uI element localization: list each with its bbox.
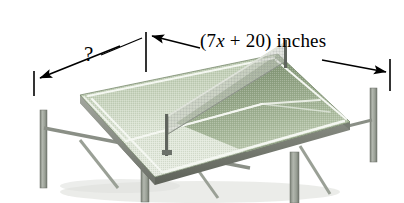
width-arrow-right	[322, 60, 386, 72]
ping-pong-table-figure: (7x + 20) inches ?	[0, 0, 404, 203]
unknown-dimension-label: ?	[84, 44, 94, 65]
depth-arrow	[40, 46, 120, 78]
width-label-variable: x	[216, 30, 225, 51]
width-dimension-label: (7x + 20) inches	[200, 31, 326, 50]
unknown-leader	[101, 38, 142, 55]
width-label-suffix: + 20) inches	[225, 30, 326, 51]
width-label-prefix: (7	[200, 30, 216, 51]
width-arrow-left	[152, 36, 200, 48]
